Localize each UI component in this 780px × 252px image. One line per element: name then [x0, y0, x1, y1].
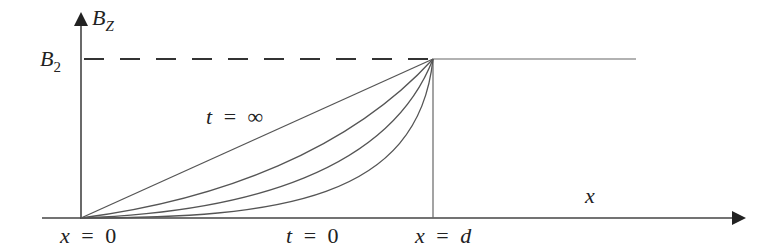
x-axis-arrow-icon [732, 211, 746, 225]
origin-label: x = 0 [59, 223, 116, 248]
boundary-label: x = d [414, 223, 472, 248]
b2-label: B2 [40, 46, 61, 75]
t-infinity-label: t = ∞ [206, 104, 263, 129]
t-zero-label: t = 0 [286, 223, 339, 248]
y-axis-label: BZ [92, 5, 114, 34]
y-axis-arrow-icon [74, 12, 88, 26]
field-diffusion-diagram: BZ B2 x x = 0 t = 0 x = d t = ∞ [0, 0, 780, 252]
x-axis-label: x [584, 183, 595, 208]
